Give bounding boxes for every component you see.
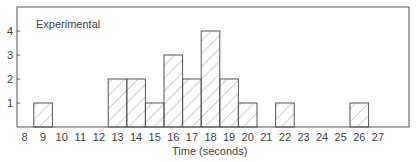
bar-22 (276, 103, 295, 127)
x-tick-label: 16 (167, 131, 179, 143)
bar-15 (145, 103, 164, 127)
x-tick-label: 14 (130, 131, 142, 143)
x-tick-label: 8 (21, 131, 27, 143)
bar-19 (220, 79, 239, 127)
x-tick-label: 27 (372, 131, 384, 143)
y-tick-label: 3 (3, 49, 13, 61)
x-tick-label: 26 (353, 131, 365, 143)
x-tick-label: 11 (75, 131, 86, 143)
x-tick-label: 12 (93, 131, 105, 143)
x-tick-label: 21 (260, 131, 272, 143)
bar-14 (127, 79, 146, 127)
bar-13 (108, 79, 127, 127)
bar-16 (164, 55, 183, 127)
x-tick-label: 13 (111, 131, 123, 143)
bar-17 (183, 79, 202, 127)
x-tick-label: 10 (56, 131, 68, 143)
x-tick-label: 15 (149, 131, 161, 143)
y-tick-label: 2 (3, 73, 13, 85)
x-tick-label: 20 (242, 131, 254, 143)
bar-9 (34, 103, 53, 127)
x-tick-label: 9 (40, 131, 46, 143)
x-tick-label: 24 (316, 131, 328, 143)
y-tick-label: 4 (3, 25, 13, 37)
x-tick-label: 25 (335, 131, 347, 143)
bar-20 (238, 103, 257, 127)
y-tick-label: 1 (3, 97, 13, 109)
x-tick-label: 17 (186, 131, 198, 143)
chart-annotation: Experimental (36, 18, 100, 30)
bar-18 (201, 31, 220, 127)
bar-26 (350, 103, 369, 127)
x-tick-label: 19 (223, 131, 235, 143)
bars-group (34, 31, 369, 127)
x-tick-label: 22 (279, 131, 291, 143)
x-axis-title: Time (seconds) (172, 145, 247, 157)
x-tick-label: 23 (297, 131, 309, 143)
x-tick-label: 18 (204, 131, 216, 143)
